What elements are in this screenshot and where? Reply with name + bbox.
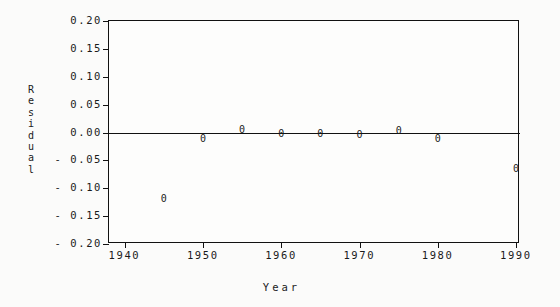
y-axis-title: Residual — [22, 84, 40, 175]
y-axis-tick-mark — [103, 188, 109, 189]
y-axis-tick-mark — [103, 216, 109, 217]
x-axis-tick-mark — [125, 242, 126, 248]
residual-plot-screenshot: Residual 0.200.150.100.050.00- 0.05- 0.1… — [0, 0, 560, 307]
data-point-marker: 0 — [239, 125, 245, 135]
y-axis-tick-mark — [103, 244, 109, 245]
x-axis-tick-label: 1990 — [475, 249, 555, 261]
y-axis-title-letter: a — [22, 152, 40, 163]
plot-area: 000000000 — [108, 20, 519, 243]
y-axis-title-letter: i — [22, 118, 40, 129]
y-axis-tick-mark — [103, 105, 109, 106]
x-axis-tick-label: 1940 — [84, 249, 164, 261]
zero-reference-line — [109, 133, 520, 134]
x-axis-tick-labels: 194019501960197019801990 — [0, 249, 560, 265]
y-axis-tick-label: 0.10 — [40, 70, 102, 82]
data-point-marker: 0 — [200, 134, 206, 144]
x-axis-tick-mark — [360, 242, 361, 248]
data-point-marker: 0 — [317, 129, 323, 139]
y-axis-tick-label: 0.00 — [40, 126, 102, 138]
y-axis-tick-mark — [103, 49, 109, 50]
y-axis-title-letter: l — [22, 164, 40, 175]
data-point-marker: 0 — [435, 134, 441, 144]
y-axis-title-letter: u — [22, 141, 40, 152]
y-axis-title-letter: d — [22, 130, 40, 141]
y-axis-tick-mark — [103, 77, 109, 78]
y-axis-title-letter: R — [22, 84, 40, 95]
y-axis-tick-label: - 0.15 — [40, 209, 102, 221]
y-axis-tick-label: 0.15 — [40, 42, 102, 54]
x-axis-tick-label: 1970 — [319, 249, 399, 261]
data-point-marker: 0 — [356, 130, 362, 140]
x-axis-tick-label: 1960 — [240, 249, 320, 261]
y-axis-tick-label: 0.05 — [40, 98, 102, 110]
data-point-marker: 0 — [396, 126, 402, 136]
data-point-marker: 0 — [278, 129, 284, 139]
data-point-marker: 0 — [513, 164, 519, 174]
y-axis-tick-label: - 0.05 — [40, 153, 102, 165]
y-axis-title-letter: s — [22, 107, 40, 118]
x-axis-tick-mark — [203, 242, 204, 248]
x-axis-title: Year — [0, 281, 560, 293]
x-axis-tick-mark — [281, 242, 282, 248]
y-axis-tick-mark — [103, 21, 109, 22]
x-axis-tick-mark — [516, 242, 517, 248]
y-axis-tick-mark — [103, 160, 109, 161]
x-axis-tick-mark — [438, 242, 439, 248]
y-axis-tick-label: - 0.10 — [40, 181, 102, 193]
y-axis-tick-mark — [103, 133, 109, 134]
y-axis-title-letter: e — [22, 95, 40, 106]
y-axis-tick-label: 0.20 — [40, 14, 102, 26]
data-point-marker: 0 — [161, 194, 167, 204]
x-axis-tick-label: 1950 — [162, 249, 242, 261]
x-axis-tick-label: 1980 — [397, 249, 477, 261]
y-axis-tick-label: - 0.20 — [40, 237, 102, 249]
